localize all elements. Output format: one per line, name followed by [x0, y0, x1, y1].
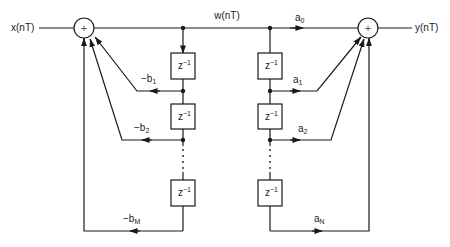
right-delay-n: z−1 — [258, 180, 282, 206]
output-label: y(nT) — [415, 22, 438, 33]
feedback-b1-label: −b1 — [141, 73, 156, 85]
left-adder-plus-icon: + — [81, 22, 87, 34]
right-adder: + — [358, 18, 378, 38]
left-delay-m: z−1 — [171, 180, 195, 206]
feedforward-a2-path — [270, 39, 364, 140]
feedforward-an-path — [270, 38, 369, 231]
left-delay-2: z−1 — [171, 104, 195, 129]
feedforward-a2-label: a2 — [298, 123, 308, 135]
iir-filter-diagram: x(nT) + w(nT) a0 + y(nT) z−1 z−1 — [0, 0, 450, 247]
feedback-b2-head — [90, 40, 92, 48]
right-adder-plus-icon: + — [365, 22, 371, 34]
feedback-b1-path — [95, 37, 183, 91]
state-label: w(nT) — [213, 10, 240, 21]
feedback-b2-label: −b2 — [134, 122, 149, 134]
feedback-b1-head — [96, 38, 101, 44]
left-adder: + — [74, 18, 94, 38]
feedforward-a1-path — [270, 37, 361, 91]
feedforward-a1-label: a1 — [293, 74, 303, 86]
right-delay-2: z−1 — [258, 104, 282, 129]
left-ellipsis — [182, 149, 184, 169]
right-ellipsis — [269, 149, 271, 169]
feedforward-a2-head — [362, 40, 364, 47]
a0-label: a0 — [295, 12, 305, 24]
feedback-bm-label: −bM — [123, 213, 140, 225]
feedforward-a1-head — [356, 38, 361, 44]
input-label: x(nT) — [11, 22, 34, 33]
left-delay-1: z−1 — [171, 53, 195, 79]
right-delay-1: z−1 — [258, 53, 282, 79]
feedforward-an-label: aN — [314, 213, 325, 225]
